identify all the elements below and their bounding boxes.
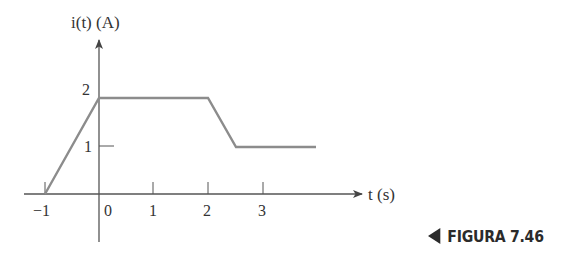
x-tick-label-2: 2 xyxy=(203,202,211,219)
x-tick-label-minus1: −1 xyxy=(33,202,50,219)
figure-caption: FIGURA 7.46 xyxy=(428,224,544,248)
chart: i(t) (A) t (s) −1 0 1 2 3 2 1 xyxy=(0,0,581,258)
x-tick-label-3: 3 xyxy=(258,202,266,219)
y-tick-label-2: 2 xyxy=(82,81,90,98)
y-tick-label-1: 1 xyxy=(84,138,92,155)
x-tick-label-1: 1 xyxy=(149,202,157,219)
x-tick-label-0: 0 xyxy=(104,202,112,219)
x-ticks xyxy=(45,182,263,194)
x-axis-label: t (s) xyxy=(368,185,395,204)
caption-text: FIGURA 7.46 xyxy=(447,227,543,246)
y-axis-label: i(t) (A) xyxy=(71,13,120,32)
left-triangle-icon xyxy=(428,228,440,244)
